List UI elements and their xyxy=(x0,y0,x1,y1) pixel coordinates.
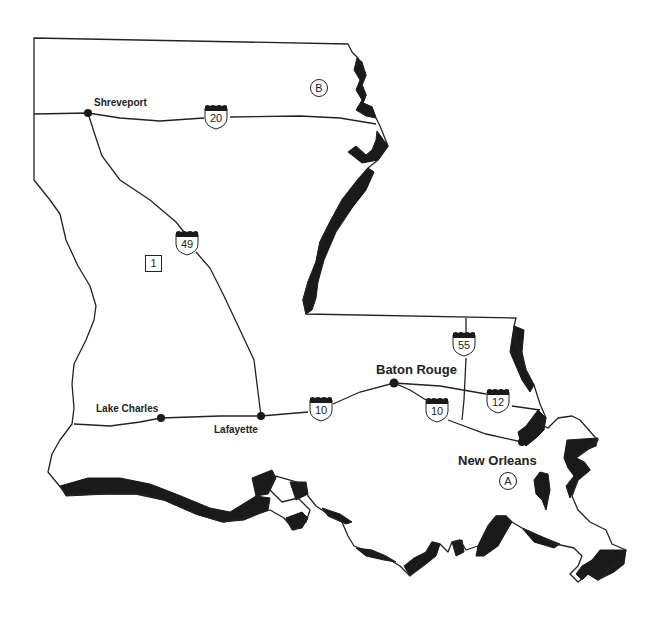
location-marker-b: B xyxy=(310,79,328,97)
i12-road xyxy=(394,383,540,410)
new-orleans-dot xyxy=(518,438,526,446)
shield-number: 10 xyxy=(425,405,449,417)
lafayette-dot xyxy=(257,412,265,420)
location-marker-a: A xyxy=(499,472,517,490)
state-outline xyxy=(34,38,626,582)
city-label-lafayette: Lafayette xyxy=(214,424,258,435)
city-label-baton-rouge: Baton Rouge xyxy=(376,362,457,377)
i49-road xyxy=(88,113,261,416)
louisiana-map xyxy=(0,0,664,621)
city-label-lake-charles: Lake Charles xyxy=(96,403,158,414)
shield-number: 49 xyxy=(175,238,199,250)
highways xyxy=(34,113,540,442)
interstate-shield-10-west: 10 xyxy=(309,396,333,420)
shield-number: 55 xyxy=(452,339,476,351)
shield-number: 20 xyxy=(204,112,228,124)
water-fills xyxy=(60,58,626,580)
baton-rouge-dot xyxy=(390,379,399,388)
city-dots xyxy=(84,109,526,446)
city-label-shreveport: Shreveport xyxy=(94,97,147,108)
shield-number: 10 xyxy=(309,404,333,416)
shreveport-dot xyxy=(84,109,92,117)
shield-number: 12 xyxy=(486,396,510,408)
interstate-shield-12: 12 xyxy=(486,388,510,412)
location-marker-1: 1 xyxy=(145,255,162,272)
lake-charles-dot xyxy=(157,414,165,422)
city-label-new-orleans: New Orleans xyxy=(458,453,537,468)
interstate-shield-49: 49 xyxy=(175,230,199,254)
interstate-shield-10-east: 10 xyxy=(425,397,449,421)
interstate-shield-55: 55 xyxy=(452,331,476,355)
interstate-shield-20: 20 xyxy=(204,104,228,128)
